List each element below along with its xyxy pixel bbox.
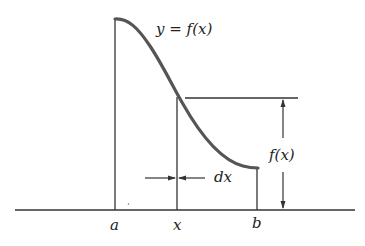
axis-label-b: b	[252, 216, 262, 231]
dx-label: dx	[214, 170, 232, 185]
area-under-curve-diagram: y = f(x) f(x) dx a x b	[0, 0, 365, 246]
curve-f	[115, 19, 258, 168]
axis-label-a: a	[110, 218, 119, 233]
curve-label: y = f(x)	[156, 22, 212, 37]
axis-label-x: x	[173, 218, 181, 233]
height-label: f(x)	[268, 148, 296, 163]
